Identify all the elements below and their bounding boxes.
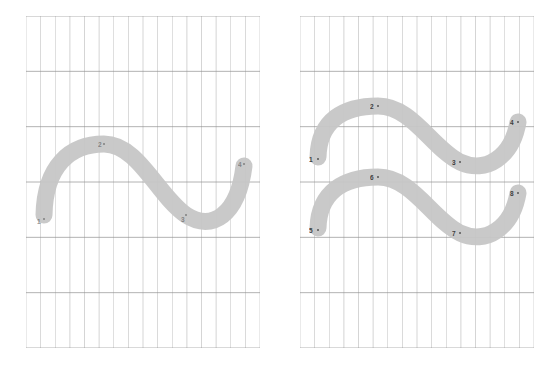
grid-lines — [26, 16, 260, 348]
figure-canvas: 123412345678 — [0, 0, 559, 369]
control-point-label: 3 — [452, 160, 455, 167]
control-point-marker[interactable] — [317, 158, 319, 160]
control-point-label: 4 — [238, 162, 241, 169]
control-point-label: 2 — [370, 104, 373, 111]
control-point-marker[interactable] — [317, 229, 319, 231]
control-point-marker[interactable] — [377, 176, 379, 178]
control-point-marker[interactable] — [43, 218, 45, 220]
control-point-marker[interactable] — [459, 161, 461, 163]
control-point-label: 3 — [181, 217, 184, 224]
control-point-marker[interactable] — [517, 121, 519, 123]
control-point-marker[interactable] — [185, 214, 187, 216]
s-curve-lower — [318, 177, 518, 237]
control-point-label: 7 — [452, 231, 455, 238]
control-point-label: 1 — [37, 219, 40, 226]
control-point-label: 1 — [309, 157, 312, 164]
control-point-marker[interactable] — [459, 232, 461, 234]
s-curve-upper — [318, 106, 518, 166]
control-point-marker[interactable] — [377, 105, 379, 107]
control-point-marker[interactable] — [103, 143, 105, 145]
control-point-label: 8 — [510, 191, 513, 198]
control-point-marker[interactable] — [243, 163, 245, 165]
s-curve — [44, 144, 244, 221]
control-point-label: 2 — [98, 142, 101, 149]
control-point-marker[interactable] — [517, 192, 519, 194]
control-point-label: 4 — [510, 120, 513, 127]
left-panel: 1234 — [26, 16, 260, 348]
control-point-label: 5 — [309, 228, 312, 235]
control-point-label: 6 — [370, 175, 373, 182]
right-panel: 12345678 — [300, 16, 534, 348]
